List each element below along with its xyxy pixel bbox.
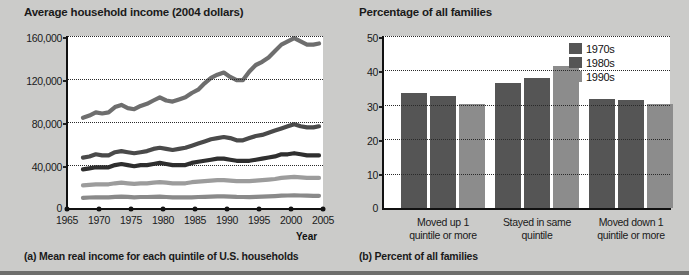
legend-label: 1990s: [586, 71, 614, 83]
y-tick-label: 50: [367, 32, 378, 44]
y-tick-label: 20: [367, 135, 378, 147]
gridline: [67, 36, 323, 37]
y-tick-label: 10: [367, 169, 378, 181]
gridline: [383, 139, 670, 140]
bar-1990s-moved-down: [647, 104, 673, 208]
panel-a-caption: (a) Mean real income for each quintile o…: [24, 250, 298, 262]
x-axis-dot: [257, 207, 262, 212]
x-axis-dot: [161, 207, 166, 212]
bar-1980s-moved-down: [618, 100, 644, 208]
x-axis-dot: [225, 207, 230, 212]
bar-1980s-moved-up: [430, 96, 456, 208]
legend-swatch-icon: [569, 71, 582, 82]
gridline: [383, 36, 670, 37]
legend-item-1970s: 1970s: [569, 42, 614, 55]
bar-1980s-stayed-same: [524, 78, 550, 208]
gridline: [383, 105, 670, 106]
y-tick-label: 30: [367, 101, 378, 113]
panel-b-title: Percentage of all families: [359, 6, 492, 18]
panel-b-y-axis-line: [382, 36, 384, 209]
x-tick-label: 1990: [216, 214, 238, 226]
legend-label: 1980s: [586, 57, 614, 69]
bar-group-label-moved-down: Moved down 1 quintile or more: [575, 216, 687, 242]
x-tick-label: 1965: [56, 214, 78, 226]
x-tick-label: 1970: [88, 214, 110, 226]
line-fourth-quintile: [83, 153, 319, 169]
legend-label: 1970s: [586, 43, 614, 55]
panel-b-bar-chart: Percentage of all families 50 40 30 20 1…: [352, 0, 689, 275]
legend-item-1990s: 1990s: [569, 70, 614, 83]
x-axis-dot: [65, 207, 70, 212]
y-tick-label: 0: [56, 202, 62, 214]
legend-swatch-icon: [569, 43, 582, 54]
bar-1990s-stayed-same: [553, 66, 579, 208]
panel-b-plot-area: 1970s 1980s 1990s: [383, 36, 670, 208]
x-axis-dot: [97, 207, 102, 212]
gridline: [67, 122, 323, 123]
y-tick-label: 160,000: [26, 32, 62, 44]
panel-a-y-axis: 160,000 120,000 80,000 40,000 0: [0, 0, 62, 275]
y-tick-label: 40: [367, 66, 378, 78]
y-tick-label: 120,000: [26, 75, 62, 87]
legend-swatch-icon: [569, 57, 582, 68]
bar-1970s-stayed-same: [495, 83, 521, 208]
x-tick-label: 1995: [248, 214, 270, 226]
gridline: [383, 174, 670, 175]
x-axis-dot: [129, 207, 134, 212]
bar-1990s-moved-up: [459, 104, 485, 209]
x-axis-dot: [193, 207, 198, 212]
gridline: [67, 79, 323, 80]
x-axis-dot: [289, 207, 294, 212]
gridline: [383, 70, 670, 71]
legend: 1970s 1980s 1990s: [569, 42, 614, 83]
line-top5: [83, 38, 319, 118]
y-tick-label: 40,000: [32, 161, 62, 173]
panel-b-caption: (b) Percent of all families: [359, 250, 478, 262]
gridline: [67, 165, 323, 166]
line-third-quintile: [83, 177, 319, 186]
y-tick-label: 0: [372, 202, 378, 214]
x-axis-dot: [321, 207, 326, 212]
line-lowest-quintile: [83, 195, 319, 198]
x-tick-label: 2000: [280, 214, 302, 226]
x-tick-label: 1975: [120, 214, 142, 226]
y-tick-label: 80,000: [32, 118, 62, 130]
x-tick-label: 1985: [184, 214, 206, 226]
group-label-line: quintile or more: [575, 229, 687, 242]
x-tick-label: 2005: [312, 214, 334, 226]
group-label-line: Moved down 1: [575, 216, 687, 229]
panel-a-x-axis-title: Year: [296, 231, 317, 242]
panel-a-line-chart: Average household income (2004 dollars) …: [0, 0, 352, 275]
x-tick-label: 1980: [152, 214, 174, 226]
panel-a-plot-area: [67, 36, 323, 208]
legend-item-1980s: 1980s: [569, 56, 614, 69]
bar-1970s-moved-down: [589, 99, 615, 208]
panel-b-y-axis: 50 40 30 20 10 0: [352, 0, 378, 275]
figure-container: Average household income (2004 dollars) …: [0, 0, 689, 275]
panel-a-y-axis-line: [66, 36, 68, 209]
bar-1970s-moved-up: [401, 93, 427, 208]
panel-b-x-axis-line: [382, 208, 671, 210]
